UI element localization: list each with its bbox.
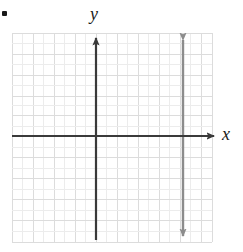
y-axis-label: y	[90, 5, 98, 23]
graph-canvas	[0, 0, 243, 252]
x-axis-label: x	[222, 125, 230, 143]
coordinate-plane-figure: y x	[0, 0, 243, 252]
